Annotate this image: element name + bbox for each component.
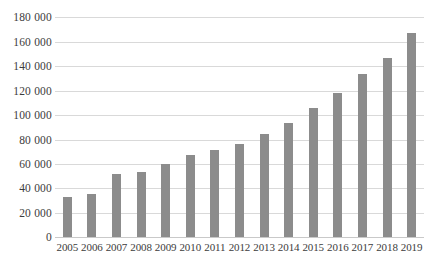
bar-slot — [178, 17, 203, 237]
y-axis-tick-label: 80 000 — [19, 134, 52, 146]
x-axis-tick-label: 2012 — [227, 241, 252, 253]
bar-slot — [80, 17, 105, 237]
x-axis-line — [55, 237, 424, 238]
x-axis-tick-label: 2013 — [252, 241, 277, 253]
y-axis-tick-label: 0 — [46, 231, 52, 243]
x-axis-tick-label: 2009 — [153, 241, 178, 253]
bar — [407, 33, 416, 237]
bar-slot — [399, 17, 424, 237]
x-axis-tick-label: 2016 — [326, 241, 351, 253]
x-axis-tick-label: 2005 — [55, 241, 80, 253]
bar — [63, 197, 72, 237]
bar — [284, 123, 293, 237]
y-axis-tick-label: 160 000 — [13, 36, 52, 48]
bar-slot — [203, 17, 228, 237]
bar — [186, 155, 195, 237]
bar-slot — [375, 17, 400, 237]
bar — [87, 194, 96, 237]
x-axis-tick-label: 2011 — [203, 241, 228, 253]
bar-slot — [104, 17, 129, 237]
x-axis-tick-label: 2015 — [301, 241, 326, 253]
bar — [358, 74, 367, 237]
y-axis-labels: 020 00040 00060 00080 000100 000120 0001… — [0, 0, 52, 267]
bar — [137, 172, 146, 237]
x-axis-tick-label: 2010 — [178, 241, 203, 253]
bar-slot — [129, 17, 154, 237]
bar — [235, 144, 244, 238]
x-axis-labels: 2005200620072008200920102011201220132014… — [55, 241, 424, 253]
bar-slot — [276, 17, 301, 237]
bar-chart: 020 00040 00060 00080 000100 000120 0001… — [0, 0, 427, 267]
x-axis-tick-label: 2007 — [104, 241, 129, 253]
y-axis-tick-label: 60 000 — [19, 158, 52, 170]
y-axis-tick-label: 120 000 — [13, 85, 52, 97]
bar-slot — [326, 17, 351, 237]
x-axis-tick-label: 2008 — [129, 241, 154, 253]
bar — [333, 93, 342, 237]
bar — [309, 108, 318, 237]
x-axis-tick-label: 2014 — [276, 241, 301, 253]
x-axis-tick-label: 2018 — [375, 241, 400, 253]
bar-slot — [301, 17, 326, 237]
plot-area — [55, 17, 424, 238]
bar — [260, 134, 269, 237]
bar — [112, 174, 121, 237]
x-axis-tick-label: 2019 — [399, 241, 424, 253]
bar — [383, 58, 392, 237]
y-axis-tick-label: 180 000 — [13, 11, 52, 23]
bar-slot — [227, 17, 252, 237]
bar-slot — [55, 17, 80, 237]
bar-slot — [252, 17, 277, 237]
y-axis-tick-label: 40 000 — [19, 182, 52, 194]
x-axis-tick-label: 2006 — [80, 241, 105, 253]
y-axis-tick-label: 140 000 — [13, 60, 52, 72]
x-axis-tick-label: 2017 — [350, 241, 375, 253]
y-axis-tick-label: 100 000 — [13, 109, 52, 121]
y-axis-tick-label: 20 000 — [19, 207, 52, 219]
bar-series — [55, 17, 424, 237]
bar — [161, 164, 170, 237]
bar-slot — [153, 17, 178, 237]
bar-slot — [350, 17, 375, 237]
bar — [210, 150, 219, 237]
